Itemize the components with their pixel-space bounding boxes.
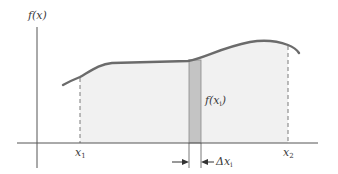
strip-width-label: Δxi bbox=[216, 156, 232, 169]
representative-strip bbox=[189, 60, 201, 143]
strip-height-label: f(xi) bbox=[205, 95, 226, 108]
left-arrow-icon bbox=[172, 159, 189, 165]
x2-label: x2 bbox=[283, 147, 294, 160]
area-under-curve-diagram: f(x) x1 x2 f(xi) Δxi bbox=[0, 0, 338, 174]
area-region bbox=[80, 41, 288, 143]
x1-label: x1 bbox=[75, 147, 86, 160]
right-arrow-icon bbox=[201, 159, 214, 165]
y-axis-label: f(x) bbox=[28, 10, 47, 21]
